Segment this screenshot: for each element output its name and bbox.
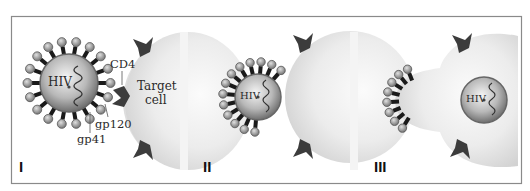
gp41-stalk [409,73,412,80]
gp120-head [227,70,235,78]
gp41-label: gp41 [77,132,106,146]
target-cell-fade [180,32,188,170]
cell-label-line1: Target [137,79,177,93]
gp120-label: gp120 [95,117,132,131]
hiv-fusion-diagram: HIV Target cell CD4 gp120 gp41 I HIV II [0,0,530,191]
gp120-head [26,93,35,102]
virus-label: HIV [240,90,261,101]
gp120-head [44,43,53,52]
gp120-head [231,119,239,127]
gp120-head [277,66,285,74]
gp120-head [390,117,398,125]
gp120-head [385,108,393,116]
gp120-head [246,59,254,67]
cd4-label: CD4 [110,57,135,71]
gp120-head [57,38,66,47]
panel-number: III [374,158,387,175]
gp120-head [257,58,265,66]
panel-number: I [19,158,23,175]
gp120-head [72,38,81,47]
gp120-head [240,125,248,133]
gp120-head [23,79,32,88]
gp41-stalk [392,93,400,95]
target-cell-fade [350,32,358,170]
gp120-head [33,52,42,61]
gp120-head [96,105,105,114]
gp120-head [96,52,105,61]
gp120-head [57,119,66,128]
gp120-head [220,101,228,109]
gp120-head [103,93,112,102]
gp120-head [33,105,42,114]
gp120-head [394,70,402,78]
gp120-head [26,64,35,73]
gp120-head [268,60,276,68]
gp120-head [403,65,411,73]
gp120-head [398,124,406,132]
virus-label: HIV [466,93,487,104]
gp120-head [224,111,232,119]
gp120-head [388,78,396,86]
gp120-head [44,114,53,123]
gp120-head [85,43,94,52]
gp120-head [72,119,81,128]
gp120-head [106,79,115,88]
virus-label: HIV [48,75,72,89]
gp41-stalk [393,108,400,111]
panel-number: II [203,158,211,175]
gp120-head [219,90,227,98]
cell-label-line2: cell [145,93,167,107]
gp120-head [384,88,392,96]
gp120-head [236,63,244,71]
gp120-head [221,79,229,87]
gp41-stalk [391,101,399,102]
gp120-head [251,128,259,136]
gp120-head [383,98,391,106]
